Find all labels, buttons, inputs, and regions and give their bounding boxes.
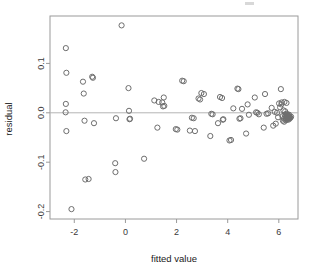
x-tick-label: -2	[70, 227, 78, 237]
data-point	[82, 118, 87, 123]
y-tick-label: -0.2	[36, 204, 46, 220]
data-point	[91, 121, 96, 126]
data-point	[239, 106, 244, 111]
data-point	[208, 133, 213, 138]
x-axis-ticks	[74, 219, 279, 223]
data-point	[81, 91, 86, 96]
data-points-group	[63, 23, 294, 212]
data-point	[113, 161, 118, 166]
data-point	[278, 87, 283, 92]
x-axis-tick-labels: -20246	[70, 227, 281, 237]
data-point	[187, 128, 192, 133]
x-tick-label: 6	[276, 227, 281, 237]
data-point	[252, 95, 257, 100]
data-point	[64, 128, 69, 133]
x-tick-label: 2	[174, 227, 179, 237]
data-point	[262, 91, 267, 96]
data-point	[197, 97, 202, 102]
data-point	[261, 125, 266, 130]
data-point	[63, 46, 68, 51]
data-point	[215, 121, 220, 126]
data-point	[63, 101, 68, 106]
data-point	[113, 169, 118, 174]
scatter-plot-canvas: -20246 0.10.0-0.1-0.2 fitted value resid…	[0, 0, 317, 275]
x-tick-label: 4	[225, 227, 230, 237]
data-point	[231, 106, 236, 111]
data-point	[119, 23, 124, 28]
data-point	[245, 102, 250, 107]
data-point	[161, 95, 166, 100]
residual-plot-figure: -20246 0.10.0-0.1-0.2 fitted value resid…	[0, 0, 317, 275]
data-point	[244, 131, 249, 136]
data-point	[126, 86, 131, 91]
y-axis-tick-labels: 0.10.0-0.1-0.2	[36, 57, 46, 219]
data-point	[64, 70, 69, 75]
y-axis-ticks	[46, 63, 50, 211]
data-point	[86, 176, 91, 181]
y-axis-title: residual	[3, 102, 14, 135]
plot-frame	[50, 16, 298, 219]
data-point	[113, 116, 118, 121]
y-tick-label: -0.1	[36, 154, 46, 170]
y-tick-label: 0.1	[36, 57, 46, 70]
x-tick-label: 0	[123, 227, 128, 237]
data-point	[192, 128, 197, 133]
data-point	[69, 207, 74, 212]
plot-border	[50, 16, 298, 219]
x-axis-title: fitted value	[151, 253, 197, 264]
data-point	[141, 156, 146, 161]
data-point	[155, 125, 160, 130]
data-point	[80, 79, 85, 84]
y-tick-label: 0.0	[36, 107, 46, 120]
top-edge-artifact	[245, 2, 254, 5]
